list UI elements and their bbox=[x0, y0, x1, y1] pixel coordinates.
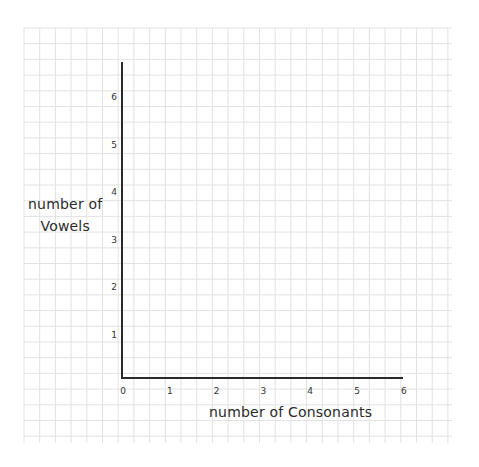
y-tick-label: 3 bbox=[111, 235, 117, 245]
chart-area: 0123456 123456 number of Vowels number o… bbox=[0, 0, 479, 467]
x-axis-label: number of Consonants bbox=[209, 404, 372, 420]
y-tick-label: 4 bbox=[111, 187, 117, 197]
y-tick-label: 6 bbox=[111, 92, 117, 102]
y-axis-label-line1: number of bbox=[28, 193, 102, 215]
x-tick-label: 1 bbox=[167, 386, 173, 396]
y-axis-label: number of Vowels bbox=[28, 193, 102, 237]
y-tick-label: 5 bbox=[111, 140, 117, 150]
x-tick-label: 6 bbox=[401, 386, 407, 396]
x-tick-label: 3 bbox=[261, 386, 267, 396]
x-tick-label: 2 bbox=[214, 386, 220, 396]
x-tick-label: 4 bbox=[307, 386, 313, 396]
y-axis-label-line2: Vowels bbox=[28, 215, 102, 237]
y-tick-label: 2 bbox=[111, 282, 117, 292]
x-tick-label: 5 bbox=[354, 386, 360, 396]
x-tick-label: 0 bbox=[120, 386, 126, 396]
y-tick-label: 1 bbox=[111, 330, 117, 340]
